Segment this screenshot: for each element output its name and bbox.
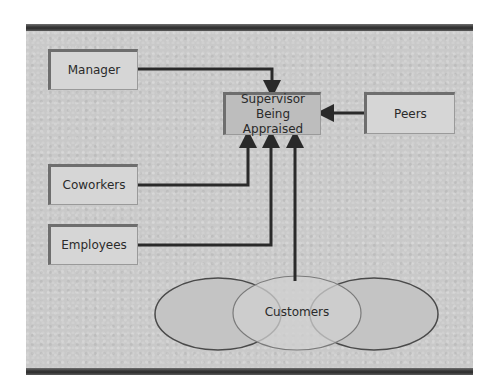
peers-box: Peers [364, 92, 455, 134]
customers-label: Customers [250, 305, 344, 319]
manager-box: Manager [48, 49, 138, 90]
employees-label: Employees [61, 238, 127, 253]
coworkers-label: Coworkers [63, 178, 126, 193]
supervisor-label-line1: Supervisor [241, 92, 305, 107]
supervisor-box: Supervisor Being Appraised [223, 92, 321, 135]
coworkers-arrow [138, 139, 248, 185]
employees-box: Employees [48, 224, 138, 265]
peers-label: Peers [394, 107, 427, 122]
supervisor-label-line2: Being Appraised [226, 107, 320, 137]
employees-arrow [138, 139, 271, 245]
coworkers-box: Coworkers [48, 164, 138, 205]
manager-label: Manager [68, 63, 121, 78]
manager-arrow [138, 69, 272, 89]
